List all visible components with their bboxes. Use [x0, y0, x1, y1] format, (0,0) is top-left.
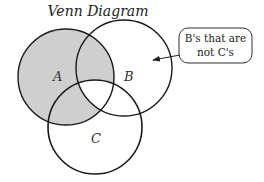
callout-line-2: not C's: [197, 46, 234, 58]
callout-line-1: B's that are: [185, 32, 247, 44]
callout-arrow-icon: [153, 55, 180, 60]
diagram-title: Venn Diagram: [48, 3, 149, 19]
label-c: C: [91, 131, 101, 146]
venn-diagram: Venn Diagram A B C B's that are not C's: [0, 0, 264, 182]
label-b: B: [123, 69, 134, 84]
label-a: A: [52, 69, 62, 84]
